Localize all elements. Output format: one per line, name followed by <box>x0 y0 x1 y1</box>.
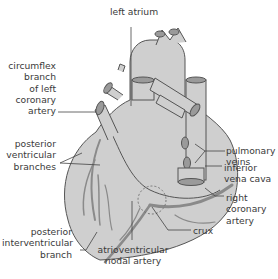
label-left-atrium: left atrium <box>110 6 158 17</box>
pulmonary-vein-opening <box>182 137 189 149</box>
vessel-opening <box>132 77 154 83</box>
label-posterior-interventricular-branch: posterior interventricular branch <box>2 226 72 260</box>
inferior-vena-cava-opening <box>178 179 204 186</box>
pulmonary-vein-opening <box>184 157 191 169</box>
vessel-opening <box>155 31 165 37</box>
label-av-nodal-artery: atrioventricular nodal artery <box>92 244 174 267</box>
vessel-opening <box>186 77 206 83</box>
vessel-opening <box>169 29 179 35</box>
label-crux: crux <box>193 225 213 236</box>
label-pulmonary-veins: pulmonary veins <box>226 145 275 168</box>
label-right-coronary-artery: right coronary artery <box>226 192 267 226</box>
label-posterior-ventricular-branches: posterior ventricular branches <box>4 138 56 172</box>
label-circumflex-branch: circumflex branch of left coronary arter… <box>4 60 56 116</box>
heart-diagram: left atrium circumflex branch of left co… <box>0 0 278 279</box>
